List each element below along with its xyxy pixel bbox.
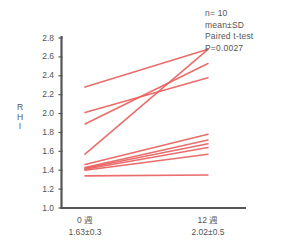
paired-line-chart: R H I 2.82.62.42.22.01.81.61.41.21.0 n= … <box>0 0 283 252</box>
y-axis-title-char-i: I <box>14 122 26 132</box>
y-tick-label: 1.4 <box>32 165 54 175</box>
subject-line <box>85 78 208 113</box>
p-value-label: P=0.0027 <box>205 43 253 55</box>
stats-annotation: n= 10 mean±SD Paired t-test P=0.0027 <box>205 8 253 54</box>
y-tick-label: 2.0 <box>32 108 54 118</box>
x-category-1: 12 週 2.02±0.5 <box>163 214 253 238</box>
x-category-0-summary: 1.63±0.3 <box>40 226 130 238</box>
y-axis-title: R H I <box>14 103 26 132</box>
y-tick-label: 2.6 <box>32 51 54 61</box>
y-tick-label: 1.2 <box>32 184 54 194</box>
x-category-1-label: 12 週 <box>163 214 253 226</box>
test-name-label: Paired t-test <box>205 31 253 43</box>
x-category-0: 0 週 1.63±0.3 <box>40 214 130 238</box>
y-tick-label: 2.4 <box>32 70 54 80</box>
x-category-1-summary: 2.02±0.5 <box>163 226 253 238</box>
subject-line <box>85 148 208 170</box>
mean-sd-label: mean±SD <box>205 20 253 32</box>
subject-line <box>85 64 208 124</box>
subject-line <box>85 49 208 87</box>
sample-size-label: n= 10 <box>205 8 253 20</box>
y-tick-label: 1.8 <box>32 127 54 137</box>
subject-line <box>85 140 208 167</box>
chart-axes <box>59 36 247 209</box>
y-tick-label: 2.8 <box>32 33 54 43</box>
subject-lines <box>85 49 208 176</box>
y-tick-label: 2.2 <box>32 89 54 99</box>
y-tick-label: 1.6 <box>32 146 54 156</box>
y-tick-label: 1.0 <box>32 203 54 213</box>
subject-line <box>85 175 208 176</box>
x-category-0-label: 0 週 <box>40 214 130 226</box>
